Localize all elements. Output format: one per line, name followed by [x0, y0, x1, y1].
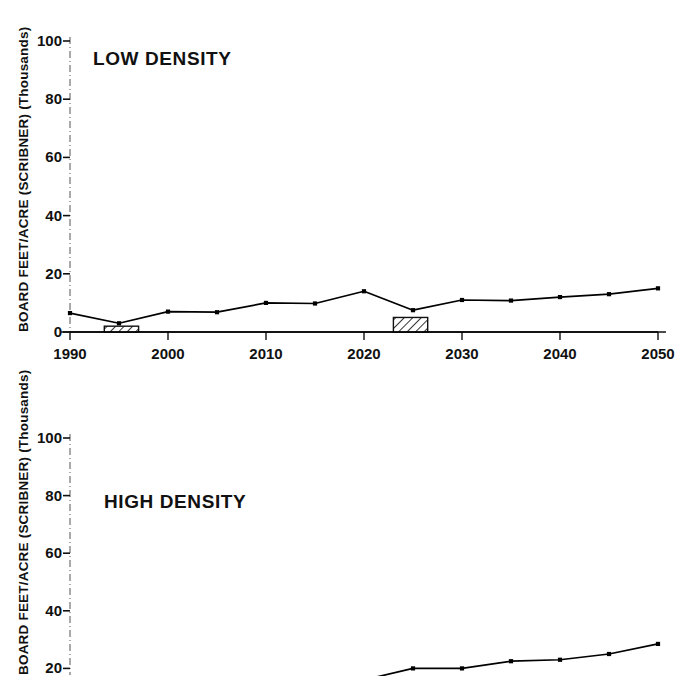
panel-high-density: [63, 434, 660, 676]
panel-low-density: [60, 37, 666, 340]
